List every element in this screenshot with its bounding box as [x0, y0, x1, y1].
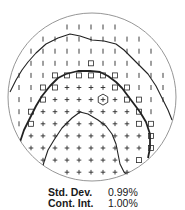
plus-symbol — [65, 97, 70, 102]
square-symbol — [41, 85, 46, 90]
outer-contour — [10, 34, 172, 120]
plus-symbol — [125, 134, 130, 139]
square-symbol — [29, 121, 34, 126]
plus-symbol — [53, 146, 58, 151]
plus-symbol — [65, 170, 70, 175]
plus-symbol — [89, 97, 94, 102]
plus-symbol — [53, 122, 58, 127]
plus-symbol — [113, 122, 118, 127]
plus-symbol — [65, 134, 70, 139]
square-symbol — [77, 73, 82, 78]
square-symbol — [89, 73, 94, 78]
plus-symbol — [89, 170, 94, 175]
plus-symbol — [65, 85, 70, 90]
center-contour — [40, 112, 130, 178]
plus-symbol — [53, 134, 58, 139]
cont-int-row: Cont. Int. 1.00% — [48, 198, 168, 209]
plus-symbol — [65, 109, 70, 114]
square-symbol — [113, 85, 118, 90]
plus-symbol — [77, 158, 82, 163]
plus-symbol — [65, 122, 70, 127]
square-symbol — [89, 61, 94, 66]
plus-symbol — [77, 146, 82, 151]
plus-symbol — [53, 109, 58, 114]
plus-symbol — [65, 146, 70, 151]
square-symbol — [113, 73, 118, 78]
plus-symbol — [89, 122, 94, 127]
plus-symbol — [29, 134, 34, 139]
map-clip-group — [8, 13, 176, 181]
plus-symbol — [77, 85, 82, 90]
plus-symbol — [77, 122, 82, 127]
plus-symbol — [101, 134, 106, 139]
plus-symbol — [113, 158, 118, 163]
plus-symbol — [89, 134, 94, 139]
plus-symbol — [101, 109, 106, 114]
plus-symbol — [89, 158, 94, 163]
plus-symbol — [101, 85, 106, 90]
plus-symbol — [89, 109, 94, 114]
square-symbol — [137, 158, 142, 163]
square-symbol — [137, 121, 142, 126]
cont-int-label: Cont. Int. — [48, 198, 108, 209]
plus-symbol — [53, 97, 58, 102]
plus-symbol — [89, 85, 94, 90]
plus-symbol — [77, 170, 82, 175]
plus-symbol — [41, 109, 46, 114]
square-symbol — [149, 121, 154, 126]
field-boundary-circle — [8, 13, 176, 181]
plus-symbol — [125, 109, 130, 114]
plus-symbol — [77, 134, 82, 139]
plus-symbol — [101, 146, 106, 151]
plus-symbol — [125, 158, 130, 163]
plus-symbol — [125, 122, 130, 127]
plus-symbol — [113, 97, 118, 102]
square-symbol — [53, 85, 58, 90]
plus-symbol — [137, 134, 142, 139]
plus-symbol — [41, 122, 46, 127]
statistics-panel: Std. Dev. 0.99% Cont. Int. 1.00% — [48, 187, 168, 209]
plus-symbol — [89, 146, 94, 151]
plus-symbol — [113, 109, 118, 114]
grid-symbols — [19, 25, 163, 175]
plus-symbol — [53, 158, 58, 163]
plus-symbol — [65, 158, 70, 163]
cont-int-value: 1.00% — [108, 198, 158, 209]
plus-symbol — [29, 146, 34, 151]
plus-symbol — [137, 146, 142, 151]
plus-symbol — [125, 146, 130, 151]
fixation-hexagon-symbol — [98, 94, 108, 105]
plus-symbol — [101, 170, 106, 175]
plus-symbol — [41, 134, 46, 139]
visual-field-map — [0, 0, 185, 185]
square-symbol — [53, 73, 58, 78]
plus-symbol — [101, 158, 106, 163]
plus-symbol — [113, 170, 118, 175]
square-symbol — [125, 85, 130, 90]
plus-symbol — [41, 146, 46, 151]
plus-symbol — [77, 97, 82, 102]
square-symbol — [137, 97, 142, 102]
